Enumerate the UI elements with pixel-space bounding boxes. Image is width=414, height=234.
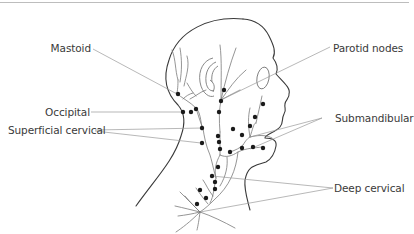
node-submandibular-5 bbox=[261, 146, 265, 150]
node-deep-1 bbox=[216, 165, 220, 169]
label-superficial-cervical: Superficial cervical bbox=[8, 124, 94, 136]
node-mastoid bbox=[176, 92, 180, 96]
label-submandibular: Submandibular bbox=[335, 112, 414, 124]
ear bbox=[200, 58, 218, 96]
leader-lines bbox=[91, 47, 333, 212]
label-parotid-nodes: Parotid nodes bbox=[333, 42, 403, 54]
node-parotid-2 bbox=[219, 99, 223, 103]
node-chain-3 bbox=[218, 147, 222, 151]
node-submandibular-2 bbox=[228, 150, 232, 154]
lymph-vessels bbox=[172, 45, 272, 232]
label-deep-cervical: Deep cervical bbox=[334, 182, 405, 194]
node-submandibular-3 bbox=[240, 146, 244, 150]
node-superficial-2 bbox=[200, 141, 204, 145]
node-occipital-3 bbox=[194, 107, 198, 111]
node-chain-4 bbox=[231, 127, 235, 131]
node-submandibular-4 bbox=[251, 145, 255, 149]
node-superficial-1 bbox=[200, 126, 204, 130]
eye bbox=[255, 66, 271, 90]
node-occipital-2 bbox=[189, 110, 193, 114]
node-deep-4 bbox=[213, 187, 217, 191]
node-face-2 bbox=[253, 115, 257, 119]
node-chain-1 bbox=[216, 134, 220, 138]
node-submandibular-1 bbox=[240, 133, 244, 137]
node-deep-5 bbox=[198, 188, 202, 192]
label-mastoid: Mastoid bbox=[40, 42, 91, 54]
node-face-1 bbox=[261, 102, 265, 106]
node-occipital-1 bbox=[181, 110, 185, 114]
node-chain-2 bbox=[217, 140, 221, 144]
node-deep-7 bbox=[195, 202, 199, 206]
node-face-3 bbox=[248, 124, 252, 128]
label-occipital: Occipital bbox=[30, 106, 90, 118]
node-deep-2 bbox=[210, 174, 214, 178]
node-deep-3 bbox=[213, 180, 217, 184]
node-deep-6 bbox=[204, 196, 208, 200]
node-parotid-3 bbox=[217, 110, 221, 114]
node-parotid-1 bbox=[222, 88, 226, 92]
